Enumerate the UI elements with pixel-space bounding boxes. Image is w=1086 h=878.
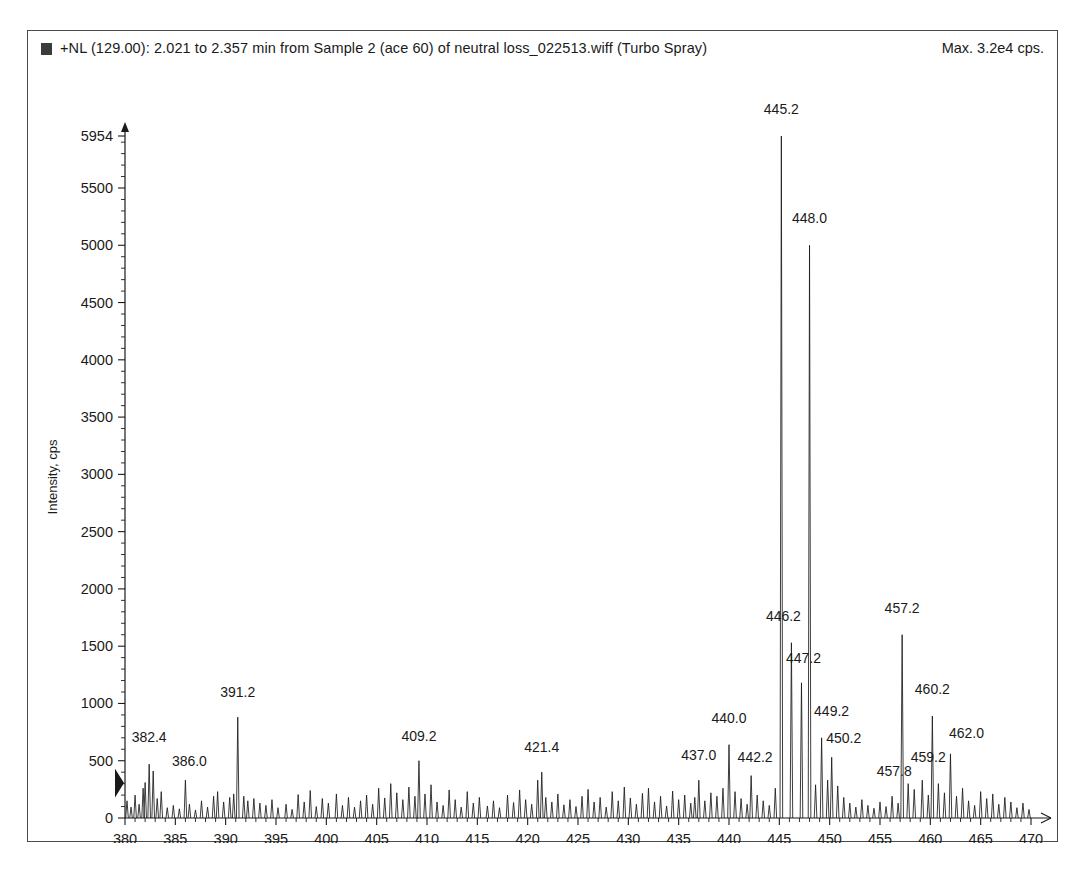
peak-trace — [544, 797, 547, 818]
peak-trace — [242, 796, 245, 818]
x-tick-label: 415 — [465, 831, 489, 843]
peak-trace — [498, 808, 501, 818]
peak-trace — [997, 804, 1000, 818]
x-tick-label: 445 — [767, 831, 791, 843]
peak-trace — [677, 800, 680, 818]
peak-trace — [265, 805, 268, 818]
peak-trace — [693, 797, 696, 818]
peak-trace — [327, 803, 330, 818]
peak-trace — [206, 807, 209, 818]
range-pointer-handle — [115, 769, 124, 798]
peak-trace — [756, 795, 759, 818]
peak-trace — [222, 802, 225, 818]
peak-trace — [891, 796, 894, 818]
peak-trace — [855, 807, 858, 818]
peak-trace — [587, 789, 590, 818]
y-tick-label: 2500 — [81, 524, 113, 540]
peak-trace — [291, 809, 294, 818]
peak-trace — [780, 136, 783, 818]
x-tick-label: 385 — [163, 831, 187, 843]
plot-area: 0500100015002000250030003500400045005000… — [28, 67, 1059, 843]
peak-trace — [285, 804, 288, 818]
peak-trace — [200, 801, 203, 818]
y-tick-label: 1500 — [81, 638, 113, 654]
y-tick-label: 3500 — [81, 409, 113, 425]
peak-trace — [659, 796, 662, 818]
axis-titles: m/z, DaIntensity, cps — [45, 439, 604, 843]
peak-trace — [740, 799, 743, 818]
peak-trace — [1022, 803, 1025, 818]
peak-trace — [937, 784, 940, 818]
peak-trace — [321, 799, 324, 818]
x-axis: 3803853903954004054104154204254304354404… — [113, 813, 1051, 843]
peak-trace — [635, 804, 638, 818]
peak-trace — [530, 804, 533, 818]
peak-label: 445.2 — [764, 101, 799, 117]
spectrum-title: +NL (129.00): 2.021 to 2.357 min from Sa… — [60, 40, 707, 56]
peak-trace — [716, 796, 719, 818]
peak-trace — [166, 808, 169, 818]
peak-trace — [418, 761, 421, 818]
peak-trace — [943, 793, 946, 818]
peak-label: 459.2 — [911, 749, 946, 765]
peak-trace — [879, 802, 882, 818]
peak-trace — [472, 803, 475, 818]
peak-trace — [424, 794, 427, 818]
peak-trace — [478, 797, 481, 818]
peak-trace — [436, 802, 439, 818]
peak-trace — [641, 793, 644, 818]
peak-trace — [734, 792, 737, 818]
peak-trace — [138, 804, 141, 818]
x-tick-label: 460 — [918, 831, 942, 843]
peak-trace — [454, 800, 457, 818]
peak-trace — [335, 794, 338, 818]
peak-traces — [126, 136, 1031, 818]
x-tick-label: 425 — [566, 831, 590, 843]
peak-trace — [130, 807, 133, 818]
x-tick-label: 420 — [516, 831, 540, 843]
peak-trace — [611, 792, 614, 818]
peak-label: 409.2 — [401, 728, 436, 744]
peak-trace — [309, 791, 312, 818]
peak-trace — [389, 784, 392, 818]
peak-label: 421.4 — [524, 739, 559, 755]
y-tick-label: 5000 — [81, 237, 113, 253]
y-axis: 0500100015002000250030003500400045005000… — [81, 122, 129, 826]
x-tick-label: 410 — [415, 831, 439, 843]
peak-trace — [697, 780, 700, 818]
peak-trace — [377, 788, 380, 818]
peak-trace — [232, 794, 235, 818]
peak-trace — [184, 780, 187, 818]
peak-trace — [867, 805, 870, 818]
peak-trace — [985, 799, 988, 818]
peak-trace — [395, 793, 398, 818]
peak-trace — [768, 805, 771, 818]
x-tick-label: 440 — [717, 831, 741, 843]
peak-trace — [671, 791, 674, 818]
peak-label: 386.0 — [172, 753, 207, 769]
peak-trace — [1016, 808, 1019, 818]
peak-label: 437.0 — [681, 747, 716, 763]
peak-trace — [1004, 797, 1007, 818]
peak-trace — [144, 782, 147, 818]
y-tick-label: 1000 — [81, 695, 113, 711]
y-tick-label: 3000 — [81, 466, 113, 482]
peak-trace — [557, 794, 560, 818]
peak-trace — [704, 801, 707, 818]
peak-trace — [710, 793, 713, 818]
x-tick-label: 465 — [969, 831, 993, 843]
y-axis-title: Intensity, cps — [45, 439, 60, 514]
peak-trace — [442, 805, 445, 818]
peak-trace — [430, 785, 433, 818]
y-tick-label: 0 — [105, 810, 113, 826]
peak-trace — [216, 792, 219, 818]
peak-trace — [247, 801, 250, 818]
peak-labels: 382.4386.0391.2409.2421.4437.0440.0442.2… — [132, 101, 985, 779]
x-tick-label: 380 — [113, 831, 137, 843]
peak-trace — [605, 807, 608, 818]
peak-trace — [774, 788, 777, 818]
peak-trace — [949, 754, 952, 818]
peak-trace — [820, 738, 823, 818]
x-tick-label: 470 — [1019, 831, 1043, 843]
peak-trace — [599, 797, 602, 818]
